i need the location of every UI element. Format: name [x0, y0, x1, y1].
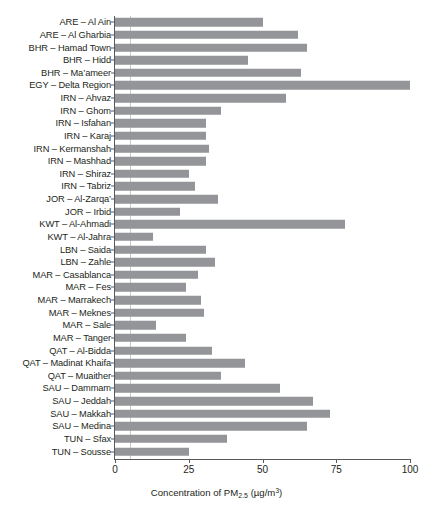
bar	[115, 409, 330, 418]
y-axis-tick	[111, 110, 114, 111]
y-axis-tick	[111, 173, 114, 174]
bar-category-label: MAR – Sale	[62, 320, 111, 330]
bar	[115, 144, 209, 153]
y-axis-tick	[111, 199, 114, 200]
bar-category-label: QAT – Madinat Khaifa	[22, 358, 111, 368]
bar-category-label: IRN – Ahvaz	[60, 93, 111, 103]
y-axis-tick	[111, 363, 114, 364]
y-axis-tick	[111, 262, 114, 263]
bar-category-label: JOR – Irbid	[65, 207, 111, 217]
x-axis-tick-mark	[189, 459, 190, 463]
bar-category-label: MAR – Fes	[65, 282, 111, 292]
bar-row: LBN – Zahle	[0, 256, 433, 269]
y-axis-tick	[111, 451, 114, 452]
y-axis-tick	[111, 224, 114, 225]
bar	[115, 245, 206, 254]
bar-category-label: IRN – Kermanshah	[34, 144, 111, 154]
y-axis-tick	[111, 401, 114, 402]
bar	[115, 447, 189, 456]
bar-category-label: SAU – Medina	[52, 421, 111, 431]
bar-category-label: JOR – Al-Zarqa’	[46, 194, 111, 204]
bar-category-label: BHR – Ma’ameer	[41, 68, 111, 78]
y-axis-tick	[111, 34, 114, 35]
y-axis-tick	[111, 60, 114, 61]
bar-row: MAR – Meknes	[0, 306, 433, 319]
bar-row: BHR – Hidd	[0, 54, 433, 67]
bar	[115, 94, 286, 103]
bar-row: SAU – Dammam	[0, 382, 433, 395]
bar-category-label: KWT – Al-Ahmadi	[39, 219, 111, 229]
bar-row: IRN – Ahvaz	[0, 92, 433, 105]
bar-row: JOR – Irbid	[0, 205, 433, 218]
y-axis-tick	[111, 274, 114, 275]
bar-category-label: TUN – Sfax	[64, 434, 111, 444]
x-axis-tick-mark	[336, 459, 337, 463]
y-axis-tick	[111, 300, 114, 301]
bar	[115, 435, 227, 444]
x-axis-tick-label: 100	[402, 464, 419, 475]
y-axis-tick	[111, 413, 114, 414]
x-axis-tick-label: 25	[183, 464, 194, 475]
bar	[115, 132, 206, 141]
bar-row: KWT – Al-Jahra	[0, 231, 433, 244]
bar-category-label: MAR – Tanger	[53, 333, 111, 343]
y-axis-tick	[111, 47, 114, 48]
bar-row: MAR – Fes	[0, 281, 433, 294]
bar	[115, 220, 345, 229]
bar	[115, 321, 156, 330]
bar-row: MAR – Marrakech	[0, 294, 433, 307]
y-axis-tick	[111, 438, 114, 439]
x-axis-title-exponent: 3	[275, 487, 279, 494]
bar	[115, 56, 248, 65]
bar	[115, 69, 301, 78]
bar	[115, 119, 206, 128]
bar	[115, 359, 245, 368]
bar-row: MAR – Tanger	[0, 332, 433, 345]
bar	[115, 43, 307, 52]
bar-row: QAT – Muaither	[0, 370, 433, 383]
bar	[115, 207, 180, 216]
bar-category-label: IRN – Karaj	[64, 131, 111, 141]
bar-category-label: ARE – Al Gharbia	[40, 30, 111, 40]
bar-category-label: QAT – Muaither	[48, 371, 111, 381]
y-axis-tick	[111, 148, 114, 149]
bar-row: EGY – Delta Region	[0, 79, 433, 92]
bar-row: IRN – Tabriz	[0, 180, 433, 193]
bar	[115, 296, 201, 305]
bar-row: IRN – Karaj	[0, 130, 433, 143]
bar-category-label: IRN – Shiraz	[60, 169, 112, 179]
bar-row: IRN – Ghom	[0, 104, 433, 117]
bar	[115, 233, 153, 242]
bar-row: SAU – Makkah	[0, 407, 433, 420]
x-axis-title: Concentration of PM2.5 (µg/m3)	[0, 487, 433, 498]
y-axis-tick	[111, 337, 114, 338]
y-axis-tick	[111, 236, 114, 237]
bar-row: MAR – Casablanca	[0, 269, 433, 282]
x-axis-tick-label: 0	[112, 464, 118, 475]
bar	[115, 18, 263, 27]
bar	[115, 283, 186, 292]
bar-category-label: ARE – Al Ain	[59, 17, 111, 27]
bar	[115, 397, 313, 406]
y-axis-tick	[111, 135, 114, 136]
bar	[115, 384, 280, 393]
y-axis-tick	[111, 72, 114, 73]
bar	[115, 81, 410, 90]
bar-row: IRN – Shiraz	[0, 168, 433, 181]
bar	[115, 31, 298, 40]
y-axis-tick	[111, 211, 114, 212]
bar	[115, 334, 186, 343]
bar-row: IRN – Mashhad	[0, 155, 433, 168]
y-axis-tick	[111, 98, 114, 99]
y-axis-tick	[111, 85, 114, 86]
bar-category-label: IRN – Isfahan	[55, 118, 111, 128]
bar-row: IRN – Isfahan	[0, 117, 433, 130]
bar	[115, 182, 195, 191]
bar-category-label: BHR – Hidd	[63, 55, 111, 65]
bar-row: LBN – Saida	[0, 243, 433, 256]
bar-category-label: MAR – Casablanca	[33, 270, 112, 280]
bar-row: SAU – Medina	[0, 420, 433, 433]
x-axis-tick-mark	[115, 459, 116, 463]
x-axis-title-subscript: 2.5	[238, 492, 248, 499]
bar-category-label: BHR – Hamad Town	[29, 43, 111, 53]
